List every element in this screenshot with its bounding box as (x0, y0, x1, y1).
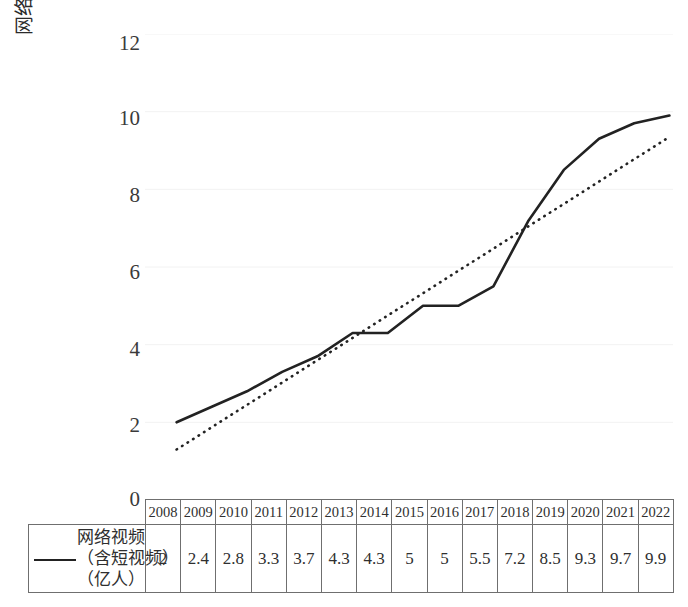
main-line-series (177, 116, 670, 423)
table-cell-2011: 3.3 (251, 525, 286, 593)
table-header-2022: 2022 (638, 500, 673, 525)
y-tick-4: 4 (100, 339, 140, 360)
line-chart-svg (145, 34, 673, 500)
table-header-2012: 2012 (286, 500, 321, 525)
y-tick-8: 8 (100, 185, 140, 206)
table-header-2015: 2015 (392, 500, 427, 525)
table-header-2008: 2008 (146, 500, 181, 525)
gridlines (145, 34, 673, 422)
table-header-2011: 2011 (251, 500, 286, 525)
y-tick-2: 2 (100, 415, 140, 436)
table-header-2017: 2017 (462, 500, 497, 525)
table-cell-2021: 9.7 (603, 525, 638, 593)
table-cell-2020: 9.3 (568, 525, 603, 593)
table-corner-cell (29, 500, 146, 525)
table-header-2009: 2009 (181, 500, 216, 525)
table-header-2013: 2013 (321, 500, 356, 525)
table-cell-2014: 4.3 (357, 525, 392, 593)
table-cell-2016: 5 (427, 525, 462, 593)
y-axis-title: 网络视频（含短视频）用户（亿人） (0, 0, 44, 99)
legend-label-line-3: （亿人） (77, 569, 139, 590)
legend-line-swatch (34, 559, 76, 561)
legend-label-line-1: 网络视频 (77, 527, 139, 548)
table-header-row: 2008200920102011201220132014201520162017… (29, 500, 674, 525)
table-cell-2015: 5 (392, 525, 427, 593)
table-cell-2019: 8.5 (533, 525, 568, 593)
y-tick-12: 12 (100, 33, 140, 54)
table-header-2010: 2010 (216, 500, 251, 525)
plot-area (145, 34, 673, 500)
table-header-2014: 2014 (357, 500, 392, 525)
y-tick-10: 10 (100, 108, 140, 129)
y-tick-6: 6 (100, 262, 140, 283)
table-header-2018: 2018 (497, 500, 532, 525)
table-row: 网络视频 （含短视频） （亿人） 22.42.83.33.74.34.3555.… (29, 525, 674, 593)
legend-cell: 网络视频 （含短视频） （亿人） (29, 525, 146, 593)
table-cell-2022: 9.9 (638, 525, 673, 593)
table-header-2016: 2016 (427, 500, 462, 525)
chart-page: 网络视频（含短视频）用户（亿人） 12 10 8 6 4 2 0 2008200… (0, 0, 688, 607)
table-header-2020: 2020 (568, 500, 603, 525)
table-cell-2012: 3.7 (286, 525, 321, 593)
table-header-2019: 2019 (533, 500, 568, 525)
table-cell-2018: 7.2 (497, 525, 532, 593)
table-cell-2017: 5.5 (462, 525, 497, 593)
trendline-series (177, 137, 670, 450)
table-cell-2013: 4.3 (321, 525, 356, 593)
table-cell-2009: 2.4 (181, 525, 216, 593)
table-cell-2010: 2.8 (216, 525, 251, 593)
legend-label: 网络视频 （含短视频） （亿人） (77, 527, 139, 590)
data-table: 2008200920102011201220132014201520162017… (28, 499, 674, 593)
legend-label-line-2: （含短视频） (77, 548, 139, 569)
table-header-2021: 2021 (603, 500, 638, 525)
